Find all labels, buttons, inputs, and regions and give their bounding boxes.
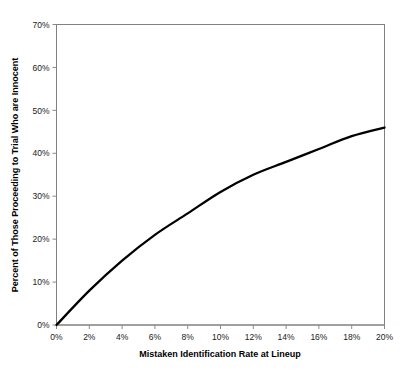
innocence-rate-line-chart: 0%10%20%30%40%50%60%70% 0%2%4%6%8%10%12%… xyxy=(0,0,410,376)
x-axis-title: Mistaken Identification Rate at Lineup xyxy=(139,349,301,359)
y-tick-label: 70% xyxy=(32,20,49,30)
x-tick-label: 14% xyxy=(278,332,295,342)
chart-container: 0%10%20%30%40%50%60%70% 0%2%4%6%8%10%12%… xyxy=(0,0,410,376)
x-tick-label: 4% xyxy=(116,332,129,342)
x-tick-label: 20% xyxy=(376,332,393,342)
y-tick-label: 20% xyxy=(32,234,49,244)
y-tick-label: 50% xyxy=(32,106,49,116)
x-tick-label: 12% xyxy=(245,332,262,342)
plot-area-frame xyxy=(57,25,385,326)
y-tick-label: 30% xyxy=(32,191,49,201)
x-tick-label: 0% xyxy=(50,332,63,342)
x-tick-label: 8% xyxy=(182,332,195,342)
x-tick-label: 2% xyxy=(83,332,96,342)
y-tick-label: 60% xyxy=(32,63,49,73)
x-tick-label: 10% xyxy=(212,332,229,342)
x-tick-label: 18% xyxy=(343,332,360,342)
x-tick-label: 16% xyxy=(310,332,327,342)
y-tick-label: 0% xyxy=(37,320,50,330)
x-tick-label: 6% xyxy=(149,332,162,342)
y-axis-title: Percent of Those Proceeding to Trial Who… xyxy=(10,58,20,293)
y-tick-label: 40% xyxy=(32,148,49,158)
y-tick-label: 10% xyxy=(32,277,49,287)
